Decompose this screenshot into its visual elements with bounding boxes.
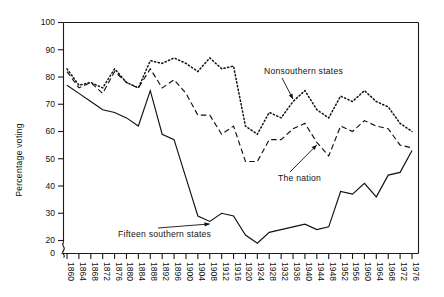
- annotation-label: The nation: [278, 173, 321, 183]
- x-tick-label: 1972: [399, 262, 409, 281]
- x-tick-label: 1948: [328, 262, 338, 281]
- x-tick-label: 1976: [411, 262, 421, 281]
- x-tick-label: 1956: [351, 262, 361, 281]
- x-tick-label: 1952: [340, 262, 350, 281]
- x-tick-label: 1888: [149, 262, 159, 281]
- x-tick-label: 1908: [209, 262, 219, 281]
- x-tick-label: 1924: [256, 262, 266, 281]
- y-tick-label: 80: [46, 72, 56, 82]
- x-tick-label: 1940: [304, 262, 314, 281]
- x-tick-label: 1900: [185, 262, 195, 281]
- y-tick-label: 40: [46, 181, 56, 191]
- y-tick-label: 0: [50, 248, 55, 258]
- x-tick-label: 1920: [244, 262, 254, 281]
- x-tick-label: 1868: [90, 262, 100, 281]
- y-tick-label: 70: [46, 99, 56, 109]
- chart-background: [0, 0, 444, 297]
- annotation-label: Fifteen southern states: [118, 229, 211, 239]
- x-tick-label: 1960: [363, 262, 373, 281]
- x-tick-label: 1964: [375, 262, 385, 281]
- x-tick-label: 1860: [66, 262, 76, 281]
- x-tick-label: 1932: [280, 262, 290, 281]
- x-tick-label: 1968: [387, 262, 397, 281]
- y-tick-label: 100: [41, 17, 55, 27]
- y-axis-title: Percentage voting: [14, 123, 24, 197]
- y-tick-label: 20: [46, 235, 56, 245]
- x-tick-label: 1916: [233, 262, 243, 281]
- x-tick-label: 1944: [316, 262, 326, 281]
- x-tick-label: 1936: [292, 262, 302, 281]
- x-tick-label: 1928: [268, 262, 278, 281]
- y-tick-label: 60: [46, 126, 56, 136]
- x-tick-label: 1896: [173, 262, 183, 281]
- y-tick-label: 30: [46, 208, 56, 218]
- x-tick-label: 1904: [197, 262, 207, 281]
- x-tick-label: 1872: [102, 262, 112, 281]
- x-tick-label: 1876: [114, 262, 124, 281]
- y-tick-label: 90: [46, 45, 56, 55]
- annotation-label: Nonsouthern states: [264, 66, 343, 76]
- x-tick-label: 1912: [221, 262, 231, 281]
- x-tick-label: 1892: [161, 262, 171, 281]
- x-tick-label: 1880: [125, 262, 135, 281]
- voter-turnout-line-chart: 02030405060708090100 1860186418681872187…: [0, 0, 444, 297]
- chart-container: 02030405060708090100 1860186418681872187…: [0, 0, 444, 297]
- y-tick-label: 50: [46, 154, 56, 164]
- x-tick-label: 1864: [78, 262, 88, 281]
- x-tick-label: 1884: [137, 262, 147, 281]
